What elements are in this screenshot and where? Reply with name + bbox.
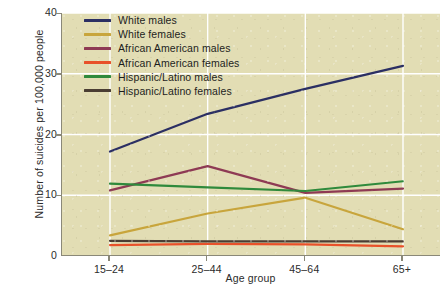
series-line-3 <box>110 244 403 246</box>
legend-item-1: White females <box>84 28 239 41</box>
y-axis-title: Number of suicides per 100,000 people <box>33 9 45 239</box>
legend-color-swatch <box>84 61 111 64</box>
legend-color-swatch <box>84 89 111 92</box>
legend: White malesWhite femalesAfrican American… <box>84 14 239 97</box>
x-tick-mark <box>304 256 306 261</box>
legend-color-swatch <box>84 33 111 36</box>
legend-item-2: African American males <box>84 42 239 55</box>
y-tick-label: 0 <box>13 249 57 261</box>
y-tick-label: 20 <box>13 128 57 140</box>
suicide-rate-line-chart: Number of suicides per 100,000 people 01… <box>0 0 446 291</box>
legend-label: African American males <box>118 42 231 54</box>
series-line-5 <box>110 241 403 242</box>
legend-item-4: Hispanic/Latino males <box>84 70 239 83</box>
x-axis-title: Age group <box>61 272 440 284</box>
y-tick-label: 30 <box>13 67 57 79</box>
legend-label: African American females <box>118 57 239 69</box>
legend-color-swatch <box>84 47 111 50</box>
legend-label: White males <box>118 14 177 26</box>
legend-color-swatch <box>84 75 111 78</box>
legend-label: White females <box>118 28 186 40</box>
x-tick-mark <box>108 256 110 261</box>
y-tick-label: 10 <box>13 188 57 200</box>
series-line-1 <box>110 198 403 236</box>
x-tick-mark <box>401 256 403 261</box>
legend-item-0: White males <box>84 14 239 27</box>
legend-item-3: African American females <box>84 56 239 69</box>
legend-item-5: Hispanic/Latino females <box>84 84 239 97</box>
x-tick-mark <box>206 256 208 261</box>
y-tick-label: 40 <box>13 6 57 18</box>
legend-color-swatch <box>84 19 111 22</box>
legend-label: Hispanic/Latino males <box>118 71 223 83</box>
legend-label: Hispanic/Latino females <box>118 85 232 97</box>
